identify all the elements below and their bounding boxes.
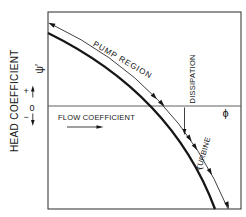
y-axis-label: HEAD COEFFICIENT: [9, 49, 20, 152]
turbine-label: TURBINE: [194, 136, 212, 172]
flow-coefficient-symbol: ϕ: [223, 107, 229, 119]
negative-sign-label: −: [24, 112, 29, 122]
head-coefficient-symbol: ψ′: [33, 64, 45, 73]
turbine-arrowhead-1: [186, 135, 192, 142]
positive-sign-label: +: [24, 86, 29, 96]
plot-frame: [48, 12, 241, 209]
figure-canvas: HEAD COEFFICIENT ψ′ + 0 − FLOW COEFFICIE…: [0, 0, 246, 217]
dissipation-arrowhead: [183, 129, 187, 135]
pump-region-label: PUMP REGION: [92, 39, 154, 80]
turbine-arrowhead-3: [207, 168, 212, 175]
turbine-arrowhead-2: [192, 143, 198, 150]
flow-direction-arrowhead: [97, 125, 104, 129]
negative-head-arrowhead: [31, 120, 35, 126]
x-axis-label: FLOW COEFFICIENT: [58, 113, 135, 122]
figure-pump-turbine-characteristic: HEAD COEFFICIENT ψ′ + 0 − FLOW COEFFICIE…: [0, 0, 246, 217]
positive-head-arrowhead: [31, 86, 35, 92]
zero-label: 0: [30, 103, 35, 113]
pump-direction-arrowhead: [48, 23, 55, 28]
dissipation-label: DISSIPATION: [188, 54, 197, 103]
